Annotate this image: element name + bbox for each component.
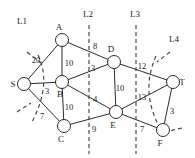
- node-label-T: T: [179, 77, 185, 87]
- diagram-canvas: S A B C D E T F 20 3 7 10 8 3 4 10 9 10 …: [0, 0, 195, 158]
- edge-weight-E-T: 13: [138, 92, 147, 102]
- edge-C-E: [64, 112, 116, 126]
- node-label-F: F: [157, 138, 162, 148]
- edge-group: [24, 40, 173, 130]
- edge-weight-F-T: 3: [170, 106, 174, 116]
- node-E[interactable]: [110, 106, 123, 119]
- edge-S-A: [24, 40, 62, 84]
- edge-weight-S-C: 7: [40, 111, 44, 121]
- cut-label-L4: L4: [169, 34, 179, 44]
- node-label-B: B: [57, 89, 63, 99]
- cut-group: [17, 25, 182, 154]
- edge-weight-A-D: 8: [93, 41, 97, 51]
- edge-weight-D-T: 12: [138, 61, 147, 71]
- node-C[interactable]: [58, 120, 71, 133]
- edge-weight-E-F: 7: [140, 124, 144, 134]
- node-group: [18, 34, 180, 137]
- cut-label-L1: L1: [17, 16, 27, 26]
- edge-weight-group: 20 3 7 10 8 3 4 10 9 10 12 13 7 3: [32, 41, 174, 134]
- node-D[interactable]: [108, 56, 121, 69]
- node-S[interactable]: [18, 78, 31, 91]
- edge-weight-A-B: 10: [65, 58, 74, 68]
- edge-weight-D-E: 10: [116, 83, 125, 93]
- node-label-S: S: [10, 79, 15, 89]
- cut-line-L4-tick-upper: [157, 52, 170, 62]
- cut-label-group: L1 L2 L3 L4: [17, 9, 179, 44]
- network-flow-diagram: S A B C D E T F 20 3 7 10 8 3 4 10 9 10 …: [0, 0, 195, 158]
- cut-label-L3: L3: [130, 9, 140, 19]
- edge-weight-B-D: 3: [91, 63, 95, 73]
- node-label-E: E: [110, 120, 116, 130]
- edge-weight-S-B: 3: [45, 86, 49, 96]
- node-B[interactable]: [56, 76, 69, 89]
- edge-weight-B-E: 4: [93, 94, 98, 104]
- node-A[interactable]: [56, 34, 69, 47]
- node-T[interactable]: [167, 76, 180, 89]
- edge-weight-C-E: 9: [92, 124, 96, 134]
- node-F[interactable]: [157, 124, 170, 137]
- cut-label-L2: L2: [83, 9, 93, 19]
- node-label-A: A: [56, 22, 63, 32]
- node-label-D: D: [108, 44, 115, 54]
- node-label-C: C: [58, 134, 64, 144]
- cut-line-L1-tick-lower: [17, 103, 31, 112]
- cut-line-L4-tick-lower: [169, 128, 182, 131]
- edge-weight-B-C: 10: [65, 102, 74, 112]
- edge-weight-S-A: 20: [32, 55, 41, 65]
